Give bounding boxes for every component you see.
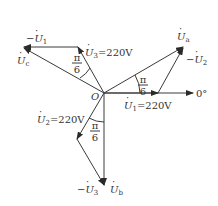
svg-text:·: · (179, 23, 182, 34)
svg-text:U2=220V: U2=220V (37, 114, 85, 127)
angle-label-uc: π 6 (72, 52, 82, 75)
angle-label-ub: π 6 (90, 120, 100, 143)
svg-text:6: 6 (74, 64, 80, 75)
label-ua: Ua · (177, 23, 190, 44)
label-neg-u1: −U1 · (26, 25, 47, 46)
svg-text:·: · (86, 176, 89, 187)
svg-text:π: π (140, 74, 147, 85)
origin-label: O (91, 91, 99, 102)
angle-arc-uc (80, 68, 90, 78)
svg-text:U1=220V: U1=220V (124, 100, 172, 113)
label-neg-u2: −U2 · (186, 46, 207, 67)
svg-text:·: · (35, 25, 38, 36)
svg-text:·: · (87, 39, 90, 50)
svg-text:·: · (195, 46, 198, 57)
svg-text:·: · (39, 106, 42, 117)
phasor-diagram: π 6 π 6 π 6 O 0° U1=220V · Ua · −U2 · U3… (0, 0, 218, 206)
angle-label-ua: π 6 (138, 74, 148, 97)
svg-text:U3=220V: U3=220V (85, 47, 133, 60)
svg-text:·: · (112, 176, 115, 187)
label-neg-u3: −U3 · (77, 176, 98, 197)
svg-text:π: π (92, 120, 99, 131)
label-u3: U3=220V · (85, 39, 133, 60)
label-ub: Ub · (110, 176, 123, 197)
axis-label: 0° (196, 88, 207, 99)
svg-text:6: 6 (92, 132, 98, 143)
label-u1: U1=220V · (124, 92, 172, 113)
phasor-neg-u3 (77, 139, 104, 185)
label-u2: U2=220V · (37, 106, 85, 127)
svg-text:6: 6 (140, 86, 146, 97)
svg-text:·: · (19, 47, 22, 58)
svg-text:π: π (74, 52, 81, 63)
svg-text:·: · (126, 92, 129, 103)
